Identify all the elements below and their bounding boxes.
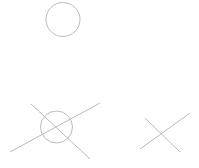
x-mark-line-b — [140, 113, 190, 149]
x-mark-line-a — [145, 118, 180, 152]
diagram-canvas — [0, 0, 199, 168]
top-circle — [46, 3, 80, 37]
crossed-line-a — [10, 103, 100, 152]
crossed-line-b — [31, 104, 90, 159]
